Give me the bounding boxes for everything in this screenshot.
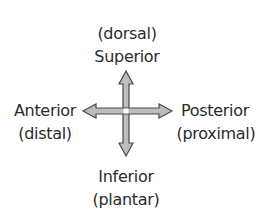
direction-cross-arrows-icon [0, 0, 264, 221]
